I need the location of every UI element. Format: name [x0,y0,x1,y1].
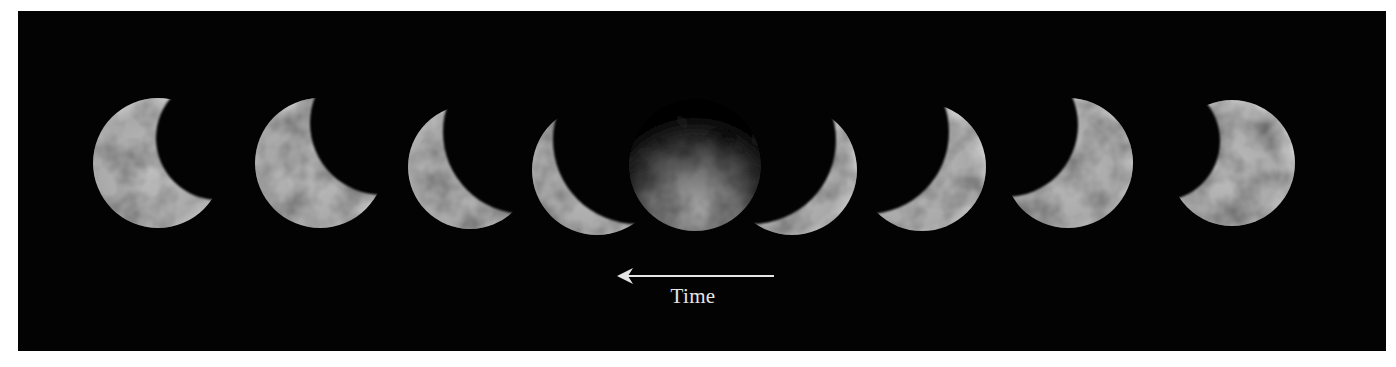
moon-phase-6 [727,105,857,235]
moon-phase-8 [1003,98,1133,228]
moon-phases-group [93,98,1295,235]
moon-phase-1 [93,98,223,228]
time-label: Time [643,284,743,309]
moon-phase-9 [1169,100,1295,226]
moon-phase-3 [408,105,532,229]
moon-phase-7 [858,103,986,231]
time-arrow [617,268,774,284]
moon-phase-2 [255,98,385,228]
eclipse-sequence [0,0,1396,367]
